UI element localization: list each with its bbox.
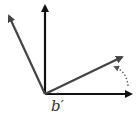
vector-arrow-accent: → <box>51 88 59 99</box>
vector-label-b-prime: → b′ <box>51 97 64 115</box>
perpendicular-vector-arrow <box>9 16 45 94</box>
vector-diagram <box>0 0 140 121</box>
vector-label-text: b′ <box>51 97 64 115</box>
rotation-hint-arrow <box>115 67 128 86</box>
